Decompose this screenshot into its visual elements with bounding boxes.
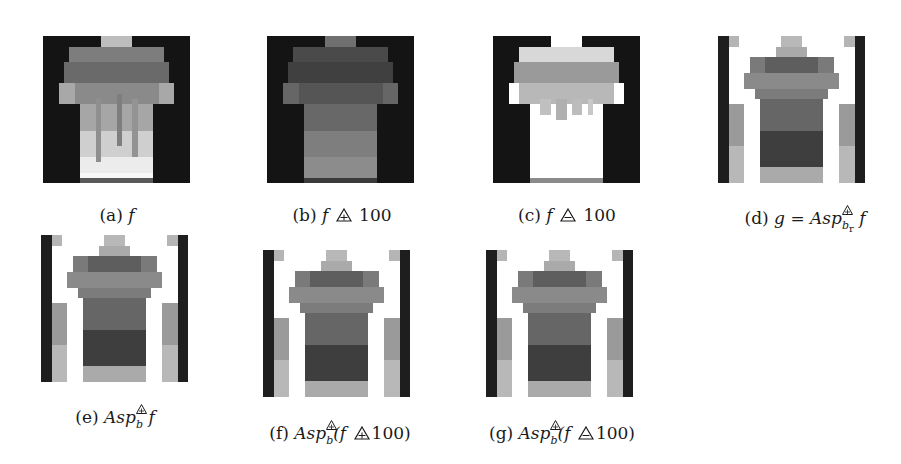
- caption-suffix: (f: [558, 423, 571, 443]
- caption-label: (a): [99, 205, 122, 225]
- caption-label: (e): [75, 407, 98, 427]
- caption-label: (g): [489, 423, 513, 443]
- caption-label: (f): [269, 423, 289, 443]
- caption-suffix: f: [148, 407, 154, 427]
- caption-a: (a) f: [62, 205, 172, 225]
- caption-math: Asp: [810, 208, 842, 228]
- image-brightened-shirt: [493, 34, 640, 185]
- caption-e: (e) Aspb f: [45, 404, 185, 435]
- minus-triangle-operator-icon: [560, 208, 576, 222]
- caption-g: (g) Aspb(f 100): [467, 420, 657, 451]
- shirt-aspect-icon: [263, 248, 410, 399]
- caption-math: Asp: [294, 423, 326, 443]
- caption-math: f: [128, 205, 134, 225]
- caption-operand: 100): [372, 423, 411, 443]
- image-aspect-g2: [486, 248, 633, 399]
- shirt-darkened-icon: [267, 34, 414, 185]
- caption-operand: 100: [359, 205, 391, 225]
- image-aspect-e: [41, 233, 188, 384]
- plus-triangle-superscript-icon: [842, 205, 853, 215]
- caption-subscript: b: [550, 434, 557, 447]
- image-aspect-f: [263, 248, 410, 399]
- caption-math: f: [546, 205, 552, 225]
- caption-f: (f) Aspb(f 100): [245, 420, 435, 451]
- image-darkened-shirt: [267, 34, 414, 185]
- caption-subscript: b: [136, 418, 143, 431]
- plus-triangle-operator-icon: [354, 426, 370, 440]
- caption-math: Asp: [519, 423, 551, 443]
- shirt-brightened-icon: [493, 34, 640, 185]
- caption-subscript: b: [842, 219, 849, 232]
- caption-operand: 100): [596, 423, 635, 443]
- caption-d: (d) g = Aspbr f: [720, 205, 890, 239]
- caption-math: Asp: [104, 407, 136, 427]
- caption-math: f: [322, 205, 328, 225]
- shirt-original-icon: [43, 34, 190, 185]
- plus-triangle-operator-icon: [336, 208, 352, 222]
- caption-label: (c): [518, 205, 541, 225]
- shirt-aspect-icon: [486, 248, 633, 399]
- caption-b: (b) f 100: [272, 205, 412, 225]
- minus-triangle-operator-icon: [578, 426, 594, 440]
- plus-triangle-superscript-icon: [136, 404, 147, 414]
- shirt-aspect-icon: [41, 233, 188, 384]
- caption-label: (d): [745, 208, 769, 228]
- shirt-aspect-icon: [718, 34, 865, 185]
- caption-suffix: f: [859, 208, 865, 228]
- caption-c: (c) f 100: [497, 205, 637, 225]
- image-aspect-g: [718, 34, 865, 185]
- caption-label: (b): [292, 205, 316, 225]
- image-original-shirt: [43, 34, 190, 185]
- caption-suffix: (f: [333, 423, 346, 443]
- caption-subsubscript: r: [849, 223, 854, 234]
- caption-prefix: g =: [774, 208, 810, 228]
- caption-operand: 100: [583, 205, 615, 225]
